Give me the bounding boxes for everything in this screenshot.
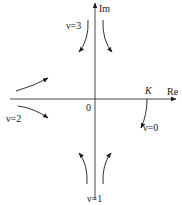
point-k-label: K (144, 85, 153, 96)
curve-label-nu1: ν=1 (87, 193, 102, 204)
origin-label: 0 (86, 102, 91, 113)
curve-label-nu2: ν=2 (6, 113, 21, 124)
curve-nu2-upper (16, 78, 48, 91)
curve-nu1-right (103, 153, 111, 184)
complex-plane-diagram: Im Re 0 K ν=3 ν=2 ν=0 ν=1 (0, 0, 182, 205)
curve-label-nu3: ν=3 (66, 20, 81, 31)
curve-label-nu0: ν=0 (143, 122, 158, 133)
curve-nu3-right (103, 20, 112, 52)
curve-nu2-lower (18, 106, 48, 118)
real-axis-label: Re (167, 86, 179, 97)
imaginary-axis-label: Im (99, 3, 110, 14)
curve-nu1-left (79, 153, 87, 184)
